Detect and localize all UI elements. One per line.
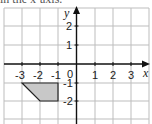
axes: [4, 12, 144, 124]
x-tick-label: 3: [128, 69, 134, 81]
y-tick-label: -2: [63, 95, 73, 107]
y-axis-label: y: [63, 6, 70, 20]
y-tick-label: 1: [66, 39, 72, 51]
shaded-trapezoid: [22, 83, 58, 101]
x-axis-label: x: [142, 66, 149, 80]
y-axis-arrow-icon: [73, 6, 80, 14]
x-tick-label: 2: [110, 69, 116, 81]
y-tick-label: 2: [66, 20, 72, 32]
coordinate-grid-chart: y x -3 -2 -1 0 1 2 3 2 1 -1 -2: [0, 0, 152, 124]
x-tick-label: 1: [92, 69, 98, 81]
x-tick-label: -3: [15, 69, 25, 81]
x-tick-label: -1: [51, 69, 61, 81]
y-tick-label: -1: [63, 77, 73, 89]
x-tick-label: -2: [33, 69, 43, 81]
